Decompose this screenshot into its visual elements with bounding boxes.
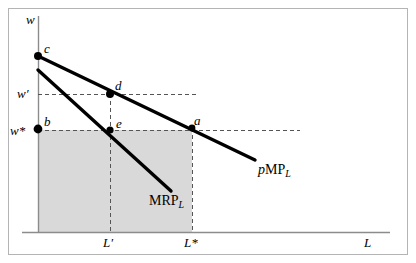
curve-label-pMPL-lead: p xyxy=(258,162,265,177)
curve-label-MRPL: MRPL xyxy=(149,194,184,210)
point-label-d: d xyxy=(115,79,122,92)
tick-label-w-star: w* xyxy=(10,124,25,137)
wage-bill-rectangle xyxy=(38,130,192,232)
point-e-marker xyxy=(106,126,113,133)
tick-label-L-star: L* xyxy=(184,236,198,249)
point-label-e: e xyxy=(116,117,122,130)
tick-label-L-prime: L′ xyxy=(103,236,113,249)
curve-label-pMPL-main: MP xyxy=(265,162,285,177)
curve-label-pMPL: pMPL xyxy=(258,163,291,179)
point-label-a: a xyxy=(194,114,201,127)
diagram-canvas xyxy=(0,0,416,263)
economics-diagram: w L c d b e a w′ w* L′ L* pMPL MRPL xyxy=(0,0,416,263)
point-label-b: b xyxy=(44,115,51,128)
curve-label-MRPL-sub: L xyxy=(179,199,185,210)
point-b-marker xyxy=(34,125,43,134)
x-axis-label: L xyxy=(364,236,371,249)
point-c-marker xyxy=(34,52,42,60)
point-label-c: c xyxy=(44,42,50,55)
curve-label-pMPL-sub: L xyxy=(285,168,291,179)
curve-label-MRPL-main: MRP xyxy=(149,193,179,208)
tick-label-w-prime: w′ xyxy=(17,87,29,100)
point-d-marker xyxy=(106,90,114,98)
y-axis-label: w xyxy=(26,13,35,26)
